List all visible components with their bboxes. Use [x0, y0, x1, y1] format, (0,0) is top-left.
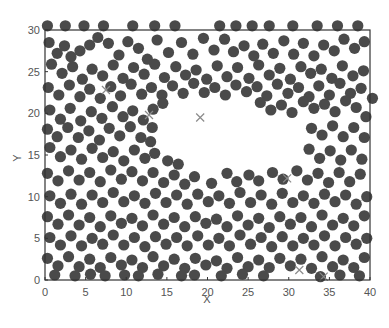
- node-circle: [347, 70, 358, 81]
- x-tick-label: 0: [42, 286, 48, 298]
- node-circle: [264, 69, 275, 80]
- node-circle: [232, 252, 243, 263]
- node-circle: [169, 169, 180, 180]
- node-circle: [147, 167, 158, 178]
- node-circle: [212, 60, 223, 71]
- node-circle: [105, 164, 116, 175]
- node-circle: [287, 197, 298, 208]
- node-circle: [76, 154, 87, 165]
- node-circle: [359, 132, 370, 143]
- node-circle: [359, 36, 370, 47]
- node-circle: [245, 197, 256, 208]
- node-circle: [231, 176, 242, 187]
- node-circle: [327, 219, 338, 230]
- node-circle: [277, 188, 288, 199]
- node-circle: [75, 115, 86, 126]
- node-circle: [126, 254, 137, 265]
- node-circle: [221, 71, 232, 82]
- node-circle: [189, 171, 200, 182]
- node-circle: [108, 146, 119, 157]
- node-circle: [367, 93, 378, 104]
- node-circle: [67, 61, 78, 72]
- y-tick-label: 10: [28, 191, 40, 203]
- node-circle: [52, 131, 63, 142]
- node-circle: [232, 210, 243, 221]
- node-circle: [308, 50, 319, 61]
- node-circle: [334, 167, 345, 178]
- node-circle: [147, 209, 158, 220]
- node-circle: [220, 89, 231, 100]
- node-circle: [272, 79, 283, 90]
- node-circle: [291, 165, 302, 176]
- node-circle: [157, 98, 168, 109]
- cross-marker-icon: [196, 114, 204, 122]
- node-circle: [129, 232, 140, 243]
- node-circle: [125, 121, 136, 132]
- node-circle: [126, 79, 137, 90]
- node-circle: [338, 34, 349, 45]
- node-circle: [137, 220, 148, 231]
- node-circle: [208, 44, 219, 55]
- node-circle: [201, 74, 212, 85]
- node-circle: [179, 179, 190, 190]
- node-circle: [173, 159, 184, 170]
- node-circle: [84, 167, 95, 178]
- node-circle: [84, 212, 95, 223]
- y-axis-label: Y: [11, 154, 23, 162]
- node-circle: [234, 187, 245, 198]
- node-circle: [85, 269, 96, 280]
- node-circle: [170, 61, 181, 72]
- node-circle: [137, 175, 148, 186]
- node-circle: [77, 74, 88, 85]
- y-tick-label: 25: [28, 66, 40, 78]
- y-tick-label: 15: [28, 149, 40, 161]
- node-circle: [241, 86, 252, 97]
- node-circle: [108, 229, 119, 240]
- node-circle: [312, 168, 323, 179]
- node-circle: [346, 144, 357, 155]
- node-circle: [74, 174, 85, 185]
- node-circle: [256, 232, 267, 243]
- node-circle: [200, 218, 211, 229]
- node-circle: [253, 213, 264, 224]
- node-circle: [63, 209, 74, 220]
- node-circle: [359, 252, 370, 263]
- node-circle: [361, 191, 372, 202]
- node-circle: [243, 219, 254, 230]
- node-circle: [358, 65, 369, 76]
- node-circle: [97, 70, 108, 81]
- node-circle: [76, 240, 87, 251]
- node-circle: [274, 63, 285, 74]
- scatter-chart: 0510152025303540 051015202530 X Y: [0, 0, 389, 328]
- node-circle: [65, 103, 76, 114]
- node-circle: [64, 79, 75, 90]
- node-circle: [171, 232, 182, 243]
- node-circle: [285, 219, 296, 230]
- node-circle: [113, 49, 124, 60]
- node-circle: [122, 36, 133, 47]
- node-circle: [251, 81, 262, 92]
- node-circle: [87, 233, 98, 244]
- node-circle: [319, 99, 330, 110]
- node-circle: [126, 213, 137, 224]
- node-circle: [87, 143, 98, 154]
- node-circle: [145, 136, 156, 147]
- x-tick-label: 35: [323, 286, 335, 298]
- node-circle: [96, 113, 107, 124]
- node-circle: [308, 198, 319, 209]
- node-circle: [277, 231, 288, 242]
- node-circle: [52, 175, 63, 186]
- node-circle: [139, 153, 150, 164]
- node-circle: [55, 198, 66, 209]
- node-circle: [105, 252, 116, 263]
- node-circle: [198, 33, 209, 44]
- node-circle: [278, 35, 289, 46]
- node-circle: [118, 196, 129, 207]
- node-circle: [56, 68, 67, 79]
- node-circle: [302, 174, 313, 185]
- node-circle: [267, 167, 278, 178]
- node-circle: [329, 45, 340, 56]
- node-circle: [255, 97, 266, 108]
- node-circle: [213, 233, 224, 244]
- node-circle: [87, 64, 98, 75]
